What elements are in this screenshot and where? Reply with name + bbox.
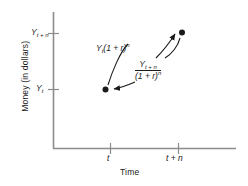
future-value-point bbox=[179, 30, 185, 36]
pv-numerator: Yt + n bbox=[135, 60, 161, 71]
y-axis-title: Money (in dollars) bbox=[21, 28, 30, 124]
fv-exponent: n bbox=[126, 42, 129, 48]
finance-time-value-diagram: Money (in dollars) Time Yt + n Yt t t + … bbox=[0, 0, 248, 186]
discounting-arrow-head bbox=[114, 82, 135, 89]
pv-denominator: (1 + r)n bbox=[135, 71, 161, 81]
present-value-formula: Yt + n (1 + r)n bbox=[135, 60, 161, 80]
y-tick-label-upper: Yt + n bbox=[31, 28, 49, 37]
pv-den-expression: (1 + r) bbox=[135, 71, 158, 81]
x-tick-label-left: t bbox=[107, 154, 109, 163]
x-axis-title: Time bbox=[120, 168, 139, 177]
y-tick-upper-base: Y bbox=[31, 27, 37, 37]
future-value-formula: Yt(1 + r)n bbox=[96, 44, 130, 53]
compounding-arrow-head bbox=[156, 34, 175, 58]
fv-expression: (1 + r) bbox=[103, 43, 126, 53]
y-tick-upper-subscript: t + n bbox=[37, 32, 49, 38]
x-tick-label-right: t + n bbox=[166, 154, 183, 163]
pv-den-exponent: n bbox=[158, 70, 161, 76]
y-tick-lower-base: Y bbox=[36, 83, 42, 93]
y-tick-label-lower: Yt bbox=[36, 84, 43, 93]
present-value-point bbox=[103, 87, 109, 93]
pv-num-subscript: t + n bbox=[145, 64, 157, 70]
fv-base: Y bbox=[96, 43, 102, 53]
discounting-arrow-tail bbox=[165, 38, 180, 58]
